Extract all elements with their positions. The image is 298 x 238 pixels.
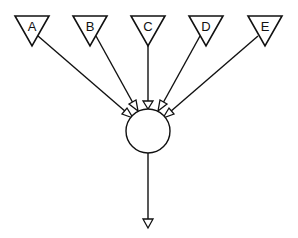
edge-hub-to-output — [143, 153, 153, 228]
hub-circle — [126, 109, 170, 153]
input-node-e: E — [248, 16, 282, 46]
arrowhead-c-icon — [143, 101, 153, 109]
input-node-d: D — [189, 16, 223, 46]
edge-b-to-hub — [96, 36, 138, 111]
input-node-a-label: A — [28, 19, 37, 34]
arrowhead-d-icon — [158, 100, 167, 111]
edge-d-to-hub — [158, 36, 200, 111]
input-node-b: B — [73, 16, 107, 46]
input-node-d-label: D — [201, 19, 210, 34]
input-node-c-label: C — [143, 19, 152, 34]
fan-in-diagram: A B C D E — [0, 0, 298, 238]
input-node-c: C — [131, 16, 165, 46]
arrowhead-b-icon — [129, 100, 138, 111]
input-node-e-label: E — [261, 19, 270, 34]
edge-c-to-hub — [143, 46, 153, 109]
input-node-b-label: B — [86, 19, 95, 34]
output-arrowhead-icon — [143, 219, 153, 228]
